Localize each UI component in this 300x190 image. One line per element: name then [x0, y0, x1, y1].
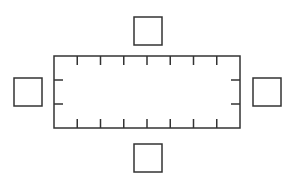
table	[54, 56, 240, 128]
chair-right	[253, 78, 281, 106]
table-outline	[54, 56, 240, 128]
chair-left	[14, 78, 42, 106]
chair-bottom	[134, 144, 162, 172]
chair-top	[134, 17, 162, 45]
table-seating-diagram	[0, 0, 300, 190]
